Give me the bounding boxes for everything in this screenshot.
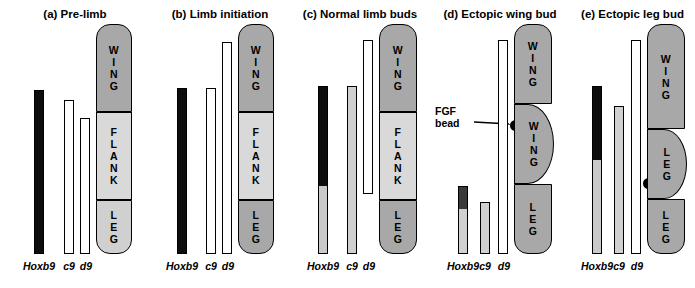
panel-c: (c) Normal limb buds W I N G F L A N K L… [290, 0, 430, 288]
panel-d-field-leg: L E G [514, 184, 552, 254]
panel-e-field-leg-ectopic-label: L E G [663, 146, 672, 182]
panel-a-field-leg-label: L E G [110, 209, 119, 245]
panel-d-bar-hoxb9-top [459, 187, 467, 209]
panel-b-field-leg: L E G [238, 200, 274, 254]
panel-c-bar-c9 [347, 86, 357, 254]
panel-d-field-wing-ectopic: W I N G [514, 104, 554, 184]
panel-c-field-column: W I N G F L A N K L E G [379, 24, 417, 254]
panel-c-title: (c) Normal limb buds [290, 8, 430, 20]
panel-a-axis-d9: d9 [73, 260, 99, 272]
panel-d-bar-d9 [498, 40, 508, 254]
panel-e-bar-hoxb9-lower [593, 160, 601, 253]
panel-e-title: (e) Ectopic leg bud [570, 8, 695, 20]
panel-b-field-wing-label: W I N G [251, 44, 261, 92]
panel-e-field-leg: L E G [647, 199, 685, 254]
panel-e-field-leg-ectopic: L E G [647, 129, 687, 199]
panel-e-bar-c9 [614, 106, 624, 254]
panel-e-field-column: W I N G L E G L E G [647, 24, 687, 254]
panel-d-field-column: W I N G W I N G L E G [514, 24, 554, 254]
panel-a: (a) Pre-limb W I N G F L A N K L E G Hox… [0, 0, 150, 288]
panel-a-field-column: W I N G F L A N K L E G [96, 24, 132, 254]
panel-a-field-flank-label: F L A N K [110, 126, 118, 186]
panel-a-title: (a) Pre-limb [0, 8, 150, 20]
panel-b: (b) Limb initiation W I N G F L A N K L … [150, 0, 290, 288]
panel-e-field-wing: W I N G [647, 24, 685, 129]
panel-d: (d) Ectopic wing bud FGF bead W I N G W … [430, 0, 570, 288]
panel-b-field-flank-label: F L A N K [252, 126, 260, 186]
panel-a-field-leg: L E G [96, 200, 132, 254]
panel-b-field-column: W I N G F L A N K L E G [238, 24, 274, 254]
panel-c-bar-hoxb9-lower [319, 186, 327, 253]
panel-b-field-wing: W I N G [238, 24, 274, 112]
panel-b-field-leg-label: L E G [252, 209, 261, 245]
panel-b-bar-d9 [222, 42, 232, 254]
panel-e: (e) Ectopic leg bud W I N G L E G L E G … [570, 0, 695, 288]
panel-c-field-flank-label: F L A N K [394, 126, 402, 186]
panel-e-field-wing-label: W I N G [661, 53, 671, 101]
panel-a-bar-c9 [64, 100, 74, 254]
panel-e-field-leg-label: L E G [662, 209, 671, 245]
panel-b-field-flank: F L A N K [238, 112, 274, 200]
panel-a-bar-hoxb9 [34, 90, 44, 254]
panel-d-field-leg-label: L E G [529, 201, 538, 237]
panel-a-field-wing: W I N G [96, 24, 132, 112]
panel-c-field-wing: W I N G [379, 24, 417, 112]
panel-a-bar-d9 [80, 118, 90, 254]
panel-d-axis-d9: d9 [491, 260, 517, 272]
panel-d-bar-c9 [480, 202, 490, 254]
panel-d-field-wing-upper: W I N G [514, 24, 552, 104]
panel-c-field-flank: F L A N K [379, 112, 417, 200]
panel-c-field-leg-label: L E G [394, 209, 403, 245]
panel-a-field-flank: F L A N K [96, 112, 132, 200]
panel-c-axis-d9: d9 [356, 260, 382, 272]
panel-b-bar-c9 [206, 88, 216, 254]
panel-d-field-wing-upper-label: W I N G [528, 40, 538, 88]
panel-c-field-wing-label: W I N G [393, 44, 403, 92]
panel-a-field-wing-label: W I N G [109, 44, 119, 92]
panel-b-title: (b) Limb initiation [150, 8, 290, 20]
panel-e-axis-d9: d9 [624, 260, 650, 272]
panel-b-axis-d9: d9 [215, 260, 241, 272]
panel-d-field-wing-ectopic-label: W I N G [529, 120, 539, 168]
panel-b-bar-hoxb9 [177, 88, 187, 254]
panel-c-field-leg: L E G [379, 200, 417, 254]
panel-c-bar-d9 [363, 40, 373, 194]
panel-e-bar-d9 [631, 40, 641, 254]
